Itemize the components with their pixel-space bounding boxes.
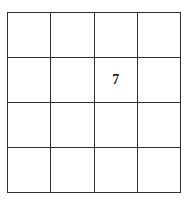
grid-cell-r2c2[interactable] — [51, 58, 94, 103]
grid-row: 7 — [8, 58, 181, 103]
cell-value-r3c2 — [51, 125, 93, 126]
cell-value-r2c2 — [51, 80, 93, 81]
grid-cell-r3c3[interactable] — [94, 103, 137, 148]
cell-value-r3c1 — [8, 125, 50, 126]
grid-cell-r4c4[interactable] — [137, 148, 180, 193]
cell-value-r3c4 — [138, 125, 180, 126]
grid-row — [8, 13, 181, 58]
grid-cell-r2c4[interactable] — [137, 58, 180, 103]
grid-cell-r1c4[interactable] — [137, 13, 180, 58]
grid-cell-r2c1[interactable] — [8, 58, 51, 103]
cell-value-r1c3 — [95, 35, 137, 36]
cell-value-r4c4 — [138, 170, 180, 171]
grid-cell-r1c3[interactable] — [94, 13, 137, 58]
grid-table: 7 — [7, 12, 181, 193]
grid-cell-r2c3[interactable]: 7 — [94, 58, 137, 103]
grid-cell-r4c3[interactable] — [94, 148, 137, 193]
grid-cell-r3c4[interactable] — [137, 103, 180, 148]
cell-value-r1c1 — [8, 35, 50, 36]
grid-cell-r1c2[interactable] — [51, 13, 94, 58]
grid-figure: 7 — [0, 0, 190, 204]
cell-value-r2c1 — [8, 80, 50, 81]
grid-cell-r3c1[interactable] — [8, 103, 51, 148]
cell-value-r4c2 — [51, 170, 93, 171]
grid-cell-r4c2[interactable] — [51, 148, 94, 193]
cell-value-r1c4 — [138, 35, 180, 36]
grid-row — [8, 103, 181, 148]
cell-value-r4c3 — [95, 170, 137, 171]
cell-value-r4c1 — [8, 170, 50, 171]
grid-cell-r1c1[interactable] — [8, 13, 51, 58]
cell-value-r1c2 — [51, 35, 93, 36]
grid-cell-r4c1[interactable] — [8, 148, 51, 193]
grid-row — [8, 148, 181, 193]
cell-value-r2c3: 7 — [95, 73, 137, 87]
cell-value-r3c3 — [95, 125, 137, 126]
grid-body: 7 — [8, 13, 181, 193]
grid-cell-r3c2[interactable] — [51, 103, 94, 148]
cell-value-r2c4 — [138, 80, 180, 81]
